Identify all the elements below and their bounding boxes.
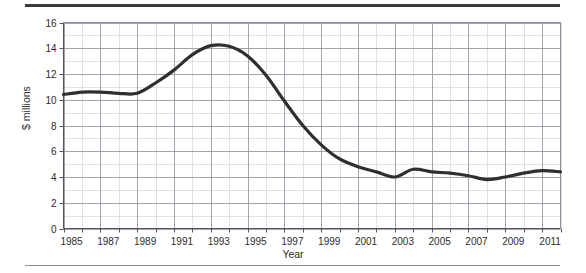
x-tick-label: 2005 (429, 236, 452, 247)
axis-frame (64, 23, 561, 229)
data-series-line (64, 45, 561, 180)
x-tick-label: 2007 (465, 236, 488, 247)
x-tick-label: 2001 (355, 236, 378, 247)
y-tick-label: 8 (51, 121, 57, 132)
y-tick-label: 2 (51, 198, 57, 209)
x-tick-label: 2009 (502, 236, 525, 247)
y-tick-label: 16 (45, 18, 57, 29)
x-tick-label: 1991 (171, 236, 194, 247)
x-tick-label: 2003 (392, 236, 415, 247)
y-tick-label: 4 (51, 172, 57, 183)
x-tick-label: 2011 (539, 236, 561, 247)
y-tick-label: 10 (45, 95, 57, 106)
minor-gridlines (64, 23, 562, 229)
x-tick-label: 1995 (244, 236, 267, 247)
y-tick-labels: 0246810121416 (45, 18, 57, 235)
x-tick-label: 1999 (318, 236, 341, 247)
axis-ticks (60, 24, 562, 233)
x-tick-label: 1989 (134, 236, 157, 247)
figure-container: $ millions 0246810121416 198519871989199… (0, 0, 586, 273)
series-path (64, 45, 561, 180)
y-tick-label: 14 (45, 43, 57, 54)
major-gridlines (64, 23, 561, 230)
bottom-divider-rule (25, 265, 560, 266)
x-tick-label: 1987 (97, 236, 120, 247)
x-tick-label: 1993 (208, 236, 231, 247)
y-tick-label: 6 (51, 146, 57, 157)
y-tick-label: 12 (45, 69, 57, 80)
x-tick-label: 1985 (60, 236, 83, 247)
line-chart-plot: 0246810121416 19851987198919911993199519… (0, 0, 586, 273)
x-axis-title: Year (0, 248, 586, 260)
x-tick-labels: 1985198719891991199319951997199920012003… (60, 236, 561, 247)
x-tick-label: 1997 (281, 236, 304, 247)
y-tick-label: 0 (51, 224, 57, 235)
